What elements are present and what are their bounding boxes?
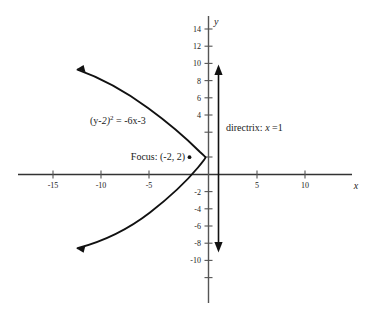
directrix-label-value: =1 (270, 122, 283, 133)
focus-point-marker (188, 155, 192, 159)
y-tick-label-10: 10 (193, 59, 201, 68)
parabola-graph-figure: -15 -10 -5 5 10 14 12 10 8 6 4 -2 (0, 0, 370, 315)
coordinate-plane: -15 -10 -5 5 10 14 12 10 8 6 4 -2 (0, 0, 370, 315)
parabola-equation-label: (y-2)2 = -6x-3 (90, 114, 146, 127)
x-axis-label: x (353, 180, 359, 191)
y-tick-label-6: 6 (197, 94, 201, 103)
y-tick-label-4: 4 (197, 111, 201, 120)
y-tick-label--6: -6 (194, 222, 201, 231)
y-tick-label-14: 14 (193, 25, 201, 34)
equation-open-paren: (y (90, 115, 98, 127)
directrix-down-arrowhead (214, 242, 222, 253)
x-tick-label-5: 5 (255, 181, 259, 190)
x-tick-label--10: -10 (96, 181, 107, 190)
y-tick-label--8: -8 (194, 239, 201, 248)
y-tick-label-12: 12 (193, 42, 201, 51)
y-tick-label--2: -2 (194, 188, 201, 197)
y-tick-label--10: -10 (190, 256, 201, 265)
y-tick-label--4: -4 (194, 205, 201, 214)
y-axis-label: y (213, 16, 219, 27)
directrix-label: directrix: x =1 (226, 122, 283, 133)
directrix-up-arrowhead (214, 65, 222, 76)
focus-label: Focus: (-2, 2) (131, 151, 185, 163)
directrix-label-prefix: directrix: (226, 122, 265, 133)
equation-minus-two: -2) (98, 115, 110, 127)
equation-rhs: = -6x-3 (114, 115, 146, 126)
x-tick-label-10: 10 (301, 181, 309, 190)
x-tick-label--15: -15 (48, 181, 59, 190)
x-tick-label--5: -5 (146, 181, 153, 190)
y-tick-label-8: 8 (197, 77, 201, 86)
